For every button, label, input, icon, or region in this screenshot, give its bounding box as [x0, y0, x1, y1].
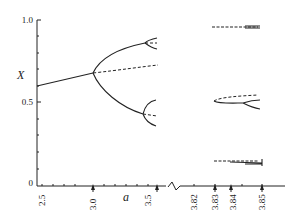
y-axis: [37, 20, 41, 186]
y-tick-0: 0: [29, 178, 34, 188]
lower-branch: [93, 73, 143, 114]
fixed-point-branch: [37, 73, 93, 86]
x-axis-label: a: [123, 190, 129, 204]
x-tick-3.82: 3.82: [189, 194, 199, 210]
x-tick-3.0: 3.0: [88, 198, 98, 210]
y-axis-label: X: [16, 68, 25, 82]
unstable-branch: [93, 65, 158, 73]
x-tick-2.5: 2.5: [37, 194, 47, 206]
y-tick-0.5: 0.5: [22, 97, 34, 107]
bifurcation-diagram: 1.0 0.5 0 X a 2.5 3.0 3.5 3.82 3.83 3.84…: [0, 0, 296, 219]
upper-branch: [93, 43, 145, 73]
x-axis-left: [37, 182, 285, 190]
x-tick-3.83: 3.83: [210, 194, 220, 210]
x-tick-3.84: 3.84: [228, 194, 238, 210]
x-tick-3.5: 3.5: [143, 194, 153, 206]
x-tick-3.85: 3.85: [257, 194, 267, 210]
y-tick-1.0: 1.0: [22, 15, 34, 25]
